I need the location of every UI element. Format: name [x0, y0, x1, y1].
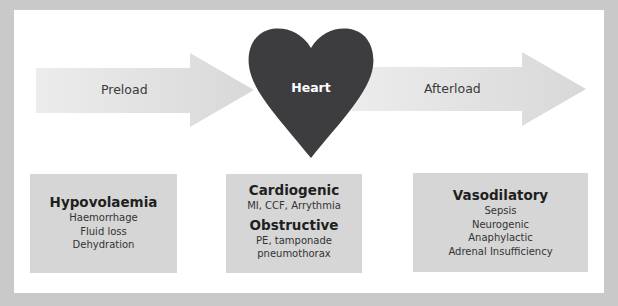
box-item: MI, CCF, Arrythmia [226, 199, 362, 213]
preload-label: Preload [101, 82, 148, 97]
box-title: Vasodilatory [413, 187, 588, 204]
box-title: Obstructive [226, 217, 362, 234]
hypovolaemia-box: Hypovolaemia Haemorrhage Fluid loss Dehy… [30, 174, 177, 273]
box-item: Dehydration [30, 238, 177, 252]
afterload-label: Afterload [424, 81, 481, 96]
box-title: Cardiogenic [226, 182, 362, 199]
cardiogenic-obstructive-box: Cardiogenic MI, CCF, Arrythmia Obstructi… [226, 174, 362, 273]
box-item: Fluid loss [30, 225, 177, 239]
box-item: Anaphylactic [413, 231, 588, 245]
box-item: Haemorrhage [30, 211, 177, 225]
box-item: PE, tamponade [226, 234, 362, 248]
box-title: Hypovolaemia [30, 194, 177, 211]
box-item: Neurogenic [413, 218, 588, 232]
vasodilatory-box: Vasodilatory Sepsis Neurogenic Anaphylac… [413, 173, 588, 272]
box-item: Sepsis [413, 204, 588, 218]
box-item: pneumothorax [226, 247, 362, 261]
heart-label: Heart [282, 80, 340, 95]
box-item: Adrenal Insufficiency [413, 245, 588, 259]
